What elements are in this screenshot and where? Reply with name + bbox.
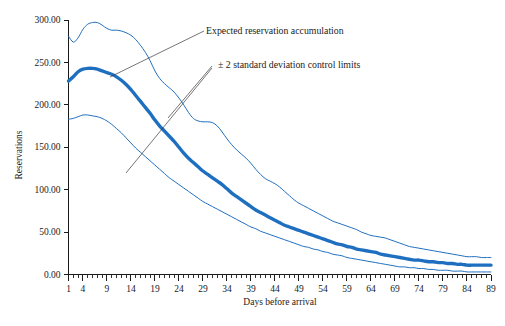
expected-annotation-label: Expected reservation accumulation [206,25,344,36]
x-tick-label: 69 [390,284,400,294]
series-line-control-limit: Lower 2 standard deviation control limit [69,115,492,272]
x-tick-label: 59 [342,284,352,294]
x-tick-label: 19 [150,284,160,294]
y-axis-title: Reservations [14,130,24,179]
x-tick-label: 89 [486,284,496,294]
x-axis-ticks: 14914192429343944495459646974798489 [66,275,496,294]
control-limits-leader-line-lower [126,68,212,173]
chart-canvas: 0.0050.00100.00150.00200.00250.00300.00 … [0,0,505,326]
x-tick-label: 64 [366,284,376,294]
y-tick-label: 50.00 [39,227,61,237]
control-limits-annotation-label: ± 2 standard deviation control limits [218,59,360,70]
y-tick-label: 150.00 [34,142,60,152]
y-tick-label: 300.00 [34,15,60,25]
x-tick-label: 9 [105,284,110,294]
y-tick-label: 0.00 [44,270,61,280]
x-tick-label: 1 [66,284,71,294]
x-tick-label: 34 [222,284,232,294]
annotations-group: Expected reservation accumulation ± 2 st… [110,25,360,173]
x-tick-label: 29 [198,284,208,294]
x-tick-label: 84 [462,284,472,294]
expected-annotation-leader-line [110,31,204,77]
y-axis-ticks: 0.0050.00100.00150.00200.00250.00300.00 [34,15,68,280]
x-tick-label: 39 [246,284,256,294]
y-tick-label: 250.00 [34,58,60,68]
x-tick-label: 24 [174,284,184,294]
x-axis-title: Days before arrival [243,297,317,307]
x-tick-label: 4 [81,284,86,294]
y-tick-label: 100.00 [34,185,60,195]
y-tick-label: 200.00 [34,100,60,110]
reservation-accumulation-chart: 0.0050.00100.00150.00200.00250.00300.00 … [0,0,505,326]
series-line-expected: Expected reservation accumulation [69,68,492,265]
x-tick-label: 49 [294,284,304,294]
x-tick-label: 14 [126,284,136,294]
x-tick-label: 79 [438,284,448,294]
x-tick-label: 54 [318,284,328,294]
x-tick-label: 74 [414,284,424,294]
x-tick-label: 44 [270,284,280,294]
